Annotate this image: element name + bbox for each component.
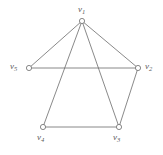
vertex-label-v1: v1 bbox=[78, 5, 85, 14]
vertex-label-v2: v2 bbox=[145, 62, 152, 71]
graph-figure: v1v2v3v4v5 bbox=[0, 0, 163, 155]
vertex-label-v4: v4 bbox=[37, 133, 44, 142]
graph-vertex-v3 bbox=[116, 124, 121, 129]
graph-edge-v2-v3 bbox=[119, 68, 138, 127]
graph-edge-v1-v5 bbox=[29, 21, 82, 68]
graph-vertex-v2 bbox=[135, 65, 140, 70]
vertex-label-v5: v5 bbox=[10, 62, 17, 71]
vertex-label-v3: v3 bbox=[113, 133, 120, 142]
graph-canvas bbox=[0, 0, 163, 155]
edge-layer bbox=[29, 21, 138, 127]
graph-vertex-v5 bbox=[26, 65, 31, 70]
graph-vertex-v4 bbox=[40, 124, 45, 129]
graph-edge-v1-v4 bbox=[43, 21, 82, 127]
graph-vertex-v1 bbox=[79, 18, 84, 23]
